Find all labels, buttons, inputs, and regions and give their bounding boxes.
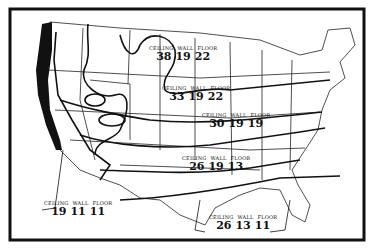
zone-label-north-central: CEILINGWALLFLOOR 331922 (160, 85, 232, 102)
wall-value: 19 (188, 91, 203, 102)
ceiling-value: 26 (189, 161, 204, 172)
floor-value: 13 (228, 161, 243, 172)
floor-value: 11 (90, 206, 105, 217)
zone-label-south-central: CEILINGWALLFLOOR 261913 (180, 155, 252, 172)
wall-value: 19 (228, 118, 243, 129)
ceiling-value: 38 (156, 51, 171, 62)
floor-value: 19 (248, 118, 263, 129)
floor-value: 22 (195, 51, 210, 62)
ceiling-value: 26 (216, 220, 231, 231)
ceiling-value: 19 (51, 206, 66, 217)
zone-label-gulf: CEILINGWALLFLOOR 261311 (207, 214, 279, 231)
wall-value: 13 (235, 220, 250, 231)
floor-value: 22 (208, 91, 223, 102)
ceiling-value: 33 (169, 91, 184, 102)
zone-label-west-coast: CEILINGWALLFLOOR 191111 (42, 200, 114, 217)
zone-label-north: CEILINGWALLFLOOR 381922 (147, 45, 219, 62)
wall-value: 11 (70, 206, 85, 217)
wall-value: 19 (175, 51, 190, 62)
zone-label-central: CEILINGWALLFLOOR 301919 (200, 112, 272, 129)
wall-value: 19 (208, 161, 223, 172)
ceiling-value: 30 (209, 118, 224, 129)
floor-value: 11 (255, 220, 270, 231)
pacific-coast-zone (36, 22, 62, 150)
